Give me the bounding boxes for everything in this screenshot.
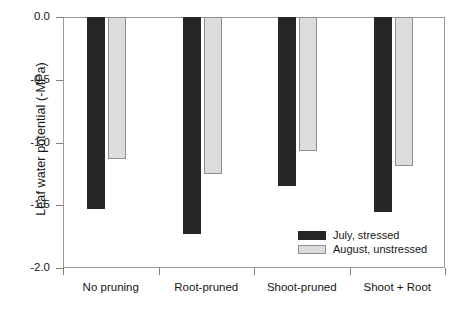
bar [374, 17, 392, 212]
x-axis-tick [254, 268, 255, 275]
x-axis-tick [63, 268, 64, 275]
bar-chart: Leaf water potential (-MPa) 0.0-0.5-1.0-… [0, 0, 460, 310]
y-axis-tick-label: -1.5 [4, 198, 50, 210]
x-axis-tick [350, 268, 351, 275]
bar [395, 17, 413, 166]
y-axis-tick-label: -0.5 [4, 73, 50, 85]
bar [87, 17, 105, 209]
legend-label-july-stressed: July, stressed [333, 230, 399, 241]
x-axis-category-label: Root-pruned [174, 281, 238, 293]
bar [204, 17, 222, 174]
bar [299, 17, 317, 151]
bar [108, 17, 126, 159]
legend-swatch-july-stressed [298, 231, 326, 240]
x-axis-tick [445, 268, 446, 275]
legend-label-august-unstressed: August, unstressed [333, 244, 427, 255]
legend-swatch-august-unstressed [298, 245, 326, 254]
y-axis-tick-label: -2.0 [4, 261, 50, 273]
y-axis-tick-label: -1.0 [4, 136, 50, 148]
x-axis-category-label: No pruning [83, 281, 139, 293]
y-axis-tick-label: 0.0 [4, 10, 50, 22]
x-axis-category-label: Shoot + Root [364, 281, 431, 293]
y-axis-tick [56, 143, 63, 144]
legend-item: July, stressed [298, 229, 427, 241]
y-axis-tick [56, 205, 63, 206]
y-axis-tick [56, 268, 63, 269]
x-axis-tick [159, 268, 160, 275]
bar [278, 17, 296, 186]
y-axis-tick [56, 17, 63, 18]
legend-item: August, unstressed [298, 243, 427, 255]
bar [183, 17, 201, 234]
legend: July, stressed August, unstressed [298, 229, 427, 257]
y-axis-tick [56, 80, 63, 81]
x-axis-category-label: Shoot-pruned [267, 281, 337, 293]
